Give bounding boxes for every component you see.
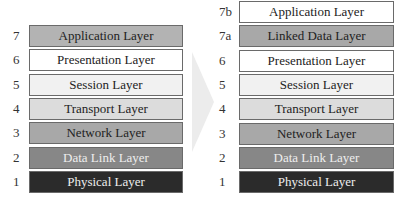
layer-number: 2 [13, 147, 20, 169]
layer-row: 2 Data Link Layer [215, 147, 405, 169]
layer-box-data-link: Data Link Layer [29, 147, 183, 169]
layer-row: 4 Transport Layer [0, 98, 190, 120]
layer-row: 3 Network Layer [0, 122, 190, 144]
layer-row: 7a Linked Data Layer [215, 25, 405, 47]
layer-number: 6 [219, 50, 226, 72]
layer-number: 7b [219, 1, 232, 23]
layer-row: 3 Network Layer [215, 123, 405, 145]
layer-number: 4 [13, 98, 20, 120]
layer-number: 5 [219, 74, 226, 96]
layer-box-application: Application Layer [29, 25, 183, 47]
layer-row: 2 Data Link Layer [0, 147, 190, 169]
layer-box-presentation: Presentation Layer [239, 50, 394, 72]
layer-row: 5 Session Layer [215, 74, 405, 96]
layer-box-network: Network Layer [29, 122, 183, 144]
layer-row: 5 Session Layer [0, 74, 190, 96]
layer-box-application: Application Layer [239, 1, 394, 23]
layer-number: 6 [13, 49, 20, 71]
layer-number: 7 [13, 25, 20, 47]
layer-box-physical: Physical Layer [29, 171, 183, 193]
layer-box-network: Network Layer [239, 123, 394, 145]
layer-number: 7a [219, 25, 231, 47]
layer-row: 6 Presentation Layer [0, 49, 190, 71]
layer-box-session: Session Layer [239, 74, 394, 96]
layer-number: 4 [219, 98, 226, 120]
osi-stack-extended: 7b Application Layer 7a Linked Data Laye… [215, 1, 405, 195]
right-arrow-icon [192, 52, 214, 152]
layer-row: 6 Presentation Layer [215, 50, 405, 72]
layer-row: 1 Physical Layer [0, 171, 190, 193]
layer-number: 3 [219, 123, 226, 145]
layer-box-transport: Transport Layer [239, 98, 394, 120]
layer-box-data-link: Data Link Layer [239, 147, 394, 169]
layer-box-session: Session Layer [29, 74, 183, 96]
layer-row: 1 Physical Layer [215, 171, 405, 193]
layer-number: 3 [13, 122, 20, 144]
layer-row: 7 Application Layer [0, 25, 190, 47]
layer-number: 1 [13, 171, 20, 193]
layer-box-linked-data: Linked Data Layer [239, 25, 394, 47]
layer-row: 7b Application Layer [215, 1, 405, 23]
layer-box-transport: Transport Layer [29, 98, 183, 120]
layer-number: 2 [219, 147, 226, 169]
layer-number: 5 [13, 74, 20, 96]
layer-number: 1 [219, 171, 226, 193]
osi-stack-original: 7 Application Layer 6 Presentation Layer… [0, 25, 190, 195]
layer-box-presentation: Presentation Layer [29, 49, 183, 71]
layer-row: 4 Transport Layer [215, 98, 405, 120]
layer-box-physical: Physical Layer [239, 171, 394, 193]
